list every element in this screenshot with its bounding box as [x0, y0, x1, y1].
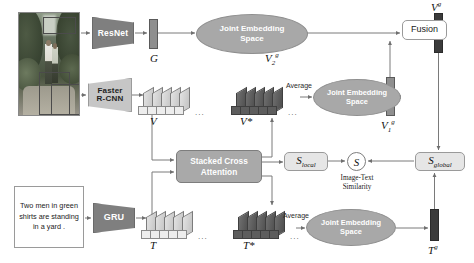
- tg-superscript: g: [434, 243, 438, 251]
- v2-superscript: g: [275, 51, 279, 59]
- sequence-element-cap: [269, 230, 279, 239]
- jes-bottom-label: Joint Embedding Space: [321, 219, 381, 237]
- gru-label: GRU: [104, 213, 125, 222]
- fusion-label: Fusion: [411, 24, 438, 35]
- vg-superscript: g: [438, 0, 442, 8]
- s-global-label: Sglobal: [428, 154, 451, 170]
- similarity-node: S: [347, 152, 366, 171]
- faster-rcnn-label: Faster R-CNN: [97, 87, 124, 104]
- photo-head-left: [46, 40, 51, 46]
- sequence-ellipsis: ...: [288, 108, 298, 117]
- joint-embedding-space-bottom: Joint Embedding Space: [306, 209, 396, 246]
- word-feature-sequence: ...: [146, 208, 212, 242]
- label-average-top: Average: [286, 82, 312, 89]
- jes-top-label: Joint Embedding Space: [220, 24, 285, 43]
- s-global-subscript: global: [434, 161, 452, 169]
- jes-bottom-line2: Space: [340, 227, 362, 236]
- s-local-label: Slocal: [296, 154, 316, 170]
- jes-top-line2: Space: [240, 34, 264, 43]
- joint-embedding-space-top: Joint Embedding Space: [196, 14, 308, 54]
- sequence-ellipsis: ...: [195, 108, 205, 117]
- region-bounding-box: [51, 84, 80, 115]
- label-global-image: G: [150, 52, 158, 64]
- sequence-ellipsis: ...: [198, 232, 208, 241]
- sca-line2: Attention: [201, 167, 237, 177]
- v2-symbol: V: [265, 52, 272, 64]
- v1-subscript: 1: [388, 126, 392, 134]
- label-t-global: Tg: [428, 243, 438, 256]
- diagram-canvas: ResNet Faster R-CNN GRU Two men in green…: [0, 0, 474, 263]
- sca-line1: Stacked Cross: [190, 156, 248, 166]
- resnet-encoder: ResNet: [92, 17, 134, 49]
- similarity-caption-line1: Image-Text: [340, 174, 373, 182]
- similarity-caption-line2: Similarity: [343, 183, 372, 191]
- v1-superscript: g: [391, 118, 395, 126]
- s-global-block: Sglobal: [415, 152, 465, 171]
- label-v1-global: V1g: [381, 118, 395, 134]
- jes-mid-line1: Joint Embedding: [327, 88, 387, 97]
- input-image: [18, 12, 80, 116]
- gru-encoder: GRU: [93, 203, 135, 233]
- vg-symbol: V: [431, 1, 438, 13]
- label-average-bottom: Average: [283, 212, 309, 219]
- sequence-element-cap: [267, 106, 277, 115]
- jes-top-line1: Joint Embedding: [220, 24, 285, 33]
- t-global-bar: [430, 209, 439, 241]
- joint-embedding-space-middle: Joint Embedding Space: [313, 79, 401, 116]
- similarity-symbol: S: [354, 156, 360, 168]
- resnet-label: ResNet: [98, 29, 129, 38]
- sequence-element-cap: [177, 230, 187, 239]
- stacked-cross-attention-block: Stacked Cross Attention: [176, 150, 262, 183]
- jes-bottom-line1: Joint Embedding: [321, 218, 381, 227]
- global-image-feature-bar: [149, 19, 158, 49]
- label-word-features: T: [150, 239, 156, 251]
- region-bounding-box: [43, 17, 76, 34]
- sca-label: Stacked Cross Attention: [190, 156, 248, 177]
- fusion-block: Fusion: [402, 20, 447, 40]
- sequence-ellipsis: ...: [290, 232, 300, 241]
- photo-head-right: [53, 43, 58, 49]
- jes-mid-line2: Space: [346, 97, 368, 106]
- v2-subscript: 2: [272, 59, 276, 67]
- label-attended-words: T*: [243, 239, 255, 251]
- label-region-features: V: [150, 115, 157, 127]
- s-local-subscript: local: [302, 161, 316, 169]
- v1-symbol: V: [381, 119, 388, 131]
- region-feature-sequence: ...: [143, 84, 209, 118]
- sequence-element-cap: [174, 106, 184, 115]
- label-attended-regions: V*: [240, 115, 252, 127]
- attended-region-sequence: ...: [236, 84, 302, 118]
- similarity-caption: Image-Text Similarity: [325, 174, 389, 192]
- caption-input: Two men in green shirts are standing in …: [14, 186, 84, 248]
- caption-text: Two men in green shirts are standing in …: [19, 201, 79, 233]
- label-v-global: Vg: [431, 0, 441, 13]
- label-v2-global: V2g: [265, 51, 279, 67]
- jes-mid-label: Joint Embedding Space: [327, 89, 387, 107]
- s-local-block: Slocal: [284, 152, 328, 171]
- faster-rcnn-label-line2: R-CNN: [97, 94, 124, 103]
- faster-rcnn-encoder: Faster R-CNN: [88, 78, 132, 112]
